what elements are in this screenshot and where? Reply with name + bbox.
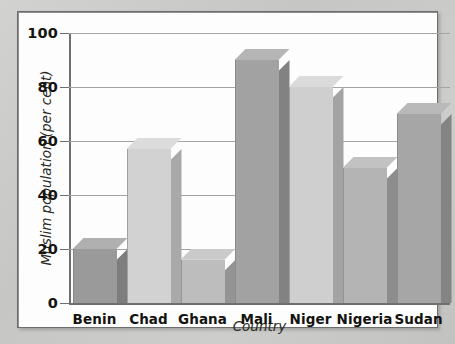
bar-top-face [127, 138, 182, 149]
chart-screenshot: Muslim population (per cent) Country 020… [0, 0, 455, 344]
bar-mali: Mali [235, 60, 279, 303]
bar-ghana: Ghana [181, 260, 225, 303]
y-tick-40 [60, 195, 69, 196]
bar-top-face [73, 238, 128, 249]
bar-nigeria: Nigeria [343, 168, 387, 303]
x-tick-label-mali: Mali [240, 311, 272, 327]
x-tick-label-chad: Chad [129, 311, 168, 327]
bars-group: BeninChadGhanaMaliNigerNigeriaSudan [71, 33, 451, 303]
y-tick-label-60: 60 [37, 133, 58, 149]
bar-front-face [397, 114, 441, 303]
x-tick-label-benin: Benin [73, 311, 117, 327]
bar-front-face [181, 260, 225, 303]
bar-side-face [441, 114, 452, 303]
bar-top-face [343, 157, 398, 168]
y-tick-label-20: 20 [37, 241, 58, 257]
y-axis-title: Muslim population (per cent) [38, 70, 54, 265]
y-tick-60 [60, 141, 69, 142]
x-tick-label-ghana: Ghana [178, 311, 227, 327]
y-tick-label-80: 80 [37, 79, 58, 95]
y-tick-label-100: 100 [27, 25, 58, 41]
x-tick-label-nigeria: Nigeria [337, 311, 393, 327]
bar-benin: Benin [73, 249, 117, 303]
y-tick-label-40: 40 [37, 187, 58, 203]
gridline-0 [69, 303, 450, 305]
bar-chad: Chad [127, 149, 171, 303]
chart-frame: Muslim population (per cent) Country 020… [17, 11, 438, 328]
y-tick-20 [60, 249, 69, 250]
y-tick-label-0: 0 [48, 295, 58, 311]
y-tick-80 [60, 87, 69, 88]
bar-front-face [127, 149, 171, 303]
y-axis-title-container: Muslim population (per cent) [48, 12, 49, 327]
bar-top-face [181, 249, 236, 260]
bar-front-face [289, 87, 333, 303]
x-tick-label-sudan: Sudan [394, 311, 442, 327]
bar-top-face [235, 49, 290, 60]
y-tick-0 [60, 303, 69, 304]
plot-area: 020406080100 BeninChadGhanaMaliNigerNige… [69, 33, 450, 303]
bar-top-face [397, 103, 452, 114]
y-tick-100 [60, 33, 69, 34]
bar-front-face [343, 168, 387, 303]
x-tick-label-niger: Niger [290, 311, 332, 327]
bar-front-face [73, 249, 117, 303]
bar-niger: Niger [289, 87, 333, 303]
bar-front-face [235, 60, 279, 303]
bar-top-face [289, 76, 344, 87]
bar-sudan: Sudan [397, 114, 441, 303]
